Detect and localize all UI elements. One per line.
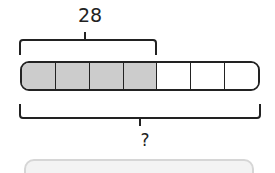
unshaded-part [225,63,258,89]
shaded-part [124,63,158,89]
shaded-part [90,63,124,89]
unshaded-part [191,63,225,89]
top-brace [20,32,156,55]
bottom-brace-label: ? [125,130,165,150]
tape-bar [20,61,260,91]
answer-input-box[interactable] [24,159,254,173]
shaded-part [22,63,56,89]
bottom-brace [20,104,260,126]
shaded-part [56,63,90,89]
unshaded-part [157,63,191,89]
